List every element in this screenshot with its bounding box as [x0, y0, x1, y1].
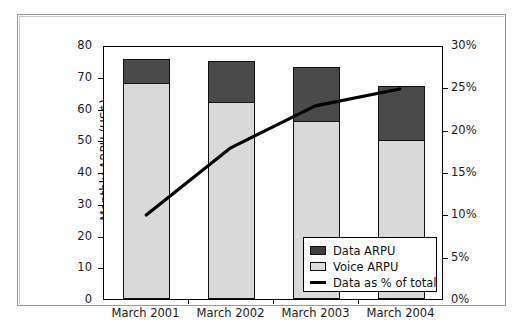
y-axis-tick-label: 20: [77, 231, 92, 243]
legend-swatch-voice-arpu: [310, 262, 326, 271]
x-axis-tick-label: March 2004: [358, 306, 443, 320]
legend-swatch-data-percent: [310, 281, 326, 284]
chart-figure: Monthly ARPU (US$) Data as % of total 01…: [0, 0, 524, 324]
y-axis-tick-label: 30: [77, 199, 92, 211]
y-axis-tick-label: 10: [77, 262, 92, 274]
y2-axis-tick-label: 20%: [451, 125, 477, 137]
y2-axis-tick-label: 30%: [451, 40, 477, 52]
chart-legend: Data ARPU Voice ARPU Data as % of total: [303, 237, 437, 292]
legend-label-data-arpu: Data ARPU: [333, 244, 395, 258]
y2-axis-tick-label: 0%: [451, 294, 469, 306]
y2-axis-tick-mark: [443, 173, 448, 174]
y2-axis-tick-mark: [443, 131, 448, 132]
legend-item-data-arpu: Data ARPU: [310, 243, 430, 258]
x-axis-tick-mark: [358, 300, 359, 304]
y-axis-tick-label: 50: [77, 135, 92, 147]
y2-axis-tick-mark: [443, 215, 448, 216]
x-axis-tick-mark: [188, 300, 189, 304]
plot-area: Data ARPU Voice ARPU Data as % of total: [103, 46, 443, 300]
data-percent-line: [146, 89, 400, 215]
figure-frame: Monthly ARPU (US$) Data as % of total 01…: [17, 14, 506, 306]
y2-axis-tick-mark: [443, 88, 448, 89]
x-axis-tick-mark: [273, 300, 274, 304]
legend-label-voice-arpu: Voice ARPU: [333, 260, 398, 274]
x-axis-tick-label: March 2002: [188, 306, 273, 320]
y-axis-tick-label: 60: [77, 104, 92, 116]
y-axis-tick-label: 70: [77, 72, 92, 84]
y2-axis-tick-label: 15%: [451, 167, 477, 179]
legend-item-data-percent: Data as % of total: [310, 275, 430, 290]
y2-axis-tick-label: 5%: [451, 252, 469, 264]
y2-axis-tick-label: 10%: [451, 209, 477, 221]
x-axis-tick-label: March 2001: [103, 306, 188, 320]
legend-item-voice-arpu: Voice ARPU: [310, 259, 430, 274]
x-axis-tick-label: March 2003: [273, 306, 358, 320]
y2-axis-tick-mark: [443, 258, 448, 259]
y-axis-tick-label: 40: [77, 167, 92, 179]
y-axis-tick-label: 80: [77, 40, 92, 52]
y-axis-tick-label: 0: [85, 294, 92, 306]
legend-swatch-data-arpu: [310, 246, 326, 255]
legend-label-data-percent: Data as % of total: [333, 276, 436, 290]
y2-axis-tick-label: 25%: [451, 82, 477, 94]
